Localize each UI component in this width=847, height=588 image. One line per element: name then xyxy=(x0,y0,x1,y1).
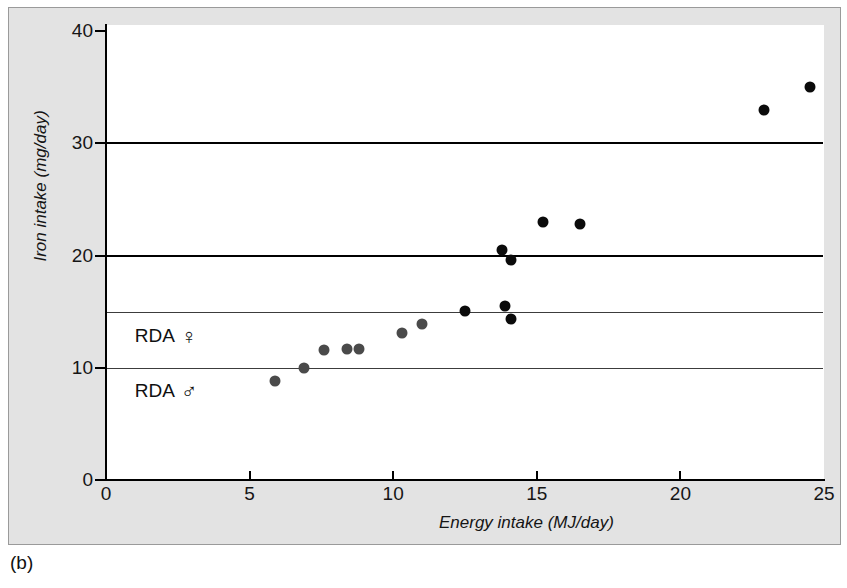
data-point xyxy=(758,104,769,115)
figure-panel: 0102030400510152025 RDA♀RDA♂ Iron intake… xyxy=(8,7,841,545)
y-tick-0 xyxy=(95,479,105,481)
data-point xyxy=(299,362,310,373)
x-tick-label-0: 0 xyxy=(81,484,131,503)
gridline-30 xyxy=(107,142,823,144)
x-tick-15 xyxy=(536,471,538,480)
x-axis-title: Energy intake (MJ/day) xyxy=(439,513,614,533)
x-tick-label-15: 15 xyxy=(512,484,562,503)
data-point xyxy=(416,318,427,329)
rda-female-annotation: RDA♀ xyxy=(135,326,198,348)
data-point xyxy=(396,327,407,338)
data-point xyxy=(319,344,330,355)
y-tick-20 xyxy=(95,255,105,257)
y-tick-30 xyxy=(95,142,105,144)
data-point xyxy=(505,314,516,325)
y-tick-10 xyxy=(95,367,105,369)
data-point xyxy=(270,376,281,387)
x-tick-5 xyxy=(249,471,251,480)
rda-male-annotation: RDA♂ xyxy=(135,381,198,403)
data-point xyxy=(574,219,585,230)
y-axis-line xyxy=(105,24,107,481)
y-axis-title: Iron intake (mg/day) xyxy=(31,46,51,326)
gridline-20 xyxy=(107,255,823,257)
data-point xyxy=(497,244,508,255)
plot-area xyxy=(106,25,824,480)
x-tick-label-5: 5 xyxy=(225,484,275,503)
x-tick-label-20: 20 xyxy=(655,484,705,503)
rda-male-line xyxy=(107,368,823,369)
rda-female-annotation-symbol-icon: ♀ xyxy=(181,324,198,349)
x-tick-20 xyxy=(679,471,681,480)
data-point xyxy=(505,254,516,265)
y-tick-label-wrap-10: 10 xyxy=(37,358,93,378)
y-tick-40 xyxy=(95,30,105,32)
data-point xyxy=(342,343,353,354)
data-point xyxy=(804,82,815,93)
y-tick-label-wrap-40: 40 xyxy=(37,21,93,41)
y-tick-label-30: 30 xyxy=(47,133,93,152)
data-point xyxy=(460,305,471,316)
data-point xyxy=(353,343,364,354)
x-tick-10 xyxy=(392,471,394,480)
rda-male-annotation-symbol-icon: ♂ xyxy=(181,379,198,404)
data-point xyxy=(500,301,511,312)
y-tick-label-20: 20 xyxy=(47,246,93,265)
y-tick-label-10: 10 xyxy=(47,358,93,377)
figure-caption: (b) xyxy=(10,553,33,572)
rda-male-annotation-text: RDA xyxy=(135,380,175,401)
y-tick-label-40: 40 xyxy=(47,21,93,40)
x-axis-line xyxy=(105,479,825,481)
x-tick-label-10: 10 xyxy=(368,484,418,503)
rda-female-annotation-text: RDA xyxy=(135,325,175,346)
data-point xyxy=(537,216,548,227)
x-tick-label-25: 25 xyxy=(799,484,847,503)
